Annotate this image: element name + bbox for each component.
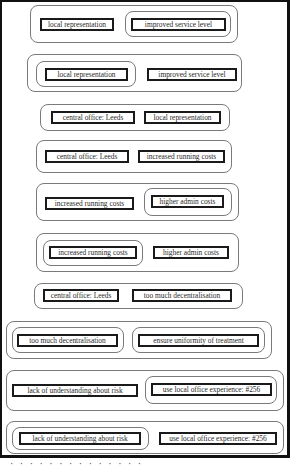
cropped-caption: · · · · · · · · · · · · · · <box>10 458 143 468</box>
node-row-8-right: ensure uniformity of treatment <box>138 334 259 347</box>
node-row-6-right: higher admin costs <box>153 246 229 259</box>
node-row-3-right: local representation <box>144 111 221 124</box>
node-row-7-left: central office: Leeds <box>43 289 119 302</box>
diagram-canvas: local representation improved service le… <box>0 0 292 468</box>
node-row-9-left: lack of understanding about risk <box>12 384 138 397</box>
node-row-10-right: use local office experience: #256 <box>159 432 277 445</box>
node-row-9-right: use local office experience: #256 <box>151 383 272 396</box>
node-row-5-left: increased running costs <box>45 197 134 210</box>
node-row-1-left: local representation <box>40 18 114 31</box>
node-row-1-right: improved service level <box>131 18 226 31</box>
node-row-2-left: local representation <box>45 68 128 81</box>
node-row-5-right: higher admin costs <box>151 195 224 208</box>
node-row-10-left: lack of understanding about risk <box>19 432 141 445</box>
node-row-6-left: increased running costs <box>49 246 137 259</box>
node-row-2-right: improved service level <box>147 68 237 81</box>
node-row-4-right: increased running costs <box>138 150 225 163</box>
node-row-4-left: central office: Leeds <box>45 150 129 163</box>
node-row-3-left: central office: Leeds <box>51 111 135 124</box>
node-row-8-left: too much decentralisation <box>17 334 118 347</box>
node-row-7-right: too much decentralisation <box>132 289 232 302</box>
